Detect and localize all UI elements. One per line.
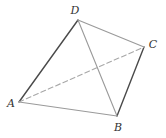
edge-ab bbox=[19, 102, 117, 116]
vertex-label-d: D bbox=[70, 4, 80, 17]
tetrahedron-diagram: ABCD bbox=[0, 0, 166, 138]
vertex-label-c: C bbox=[149, 38, 158, 51]
edge-bc bbox=[117, 47, 144, 116]
vertex-label-a: A bbox=[6, 97, 15, 110]
edge-db bbox=[78, 20, 117, 116]
edges bbox=[19, 20, 144, 116]
edge-ad bbox=[19, 20, 78, 102]
vertex-label-b: B bbox=[113, 121, 122, 134]
